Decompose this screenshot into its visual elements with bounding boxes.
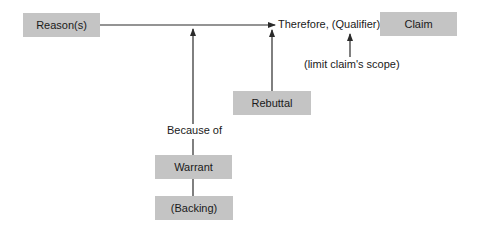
rebuttal-box: Rebuttal (233, 91, 311, 115)
because-of-label: Because of (167, 124, 222, 136)
backing-label: (Backing) (171, 202, 217, 214)
claim-box: Claim (380, 12, 457, 36)
reasons-label: Reason(s) (36, 19, 87, 31)
qualifier-note-label: (limit claim's scope) (304, 58, 400, 70)
backing-box: (Backing) (155, 196, 233, 220)
reasons-box: Reason(s) (23, 13, 100, 37)
warrant-label: Warrant (174, 161, 213, 173)
claim-label: Claim (404, 18, 432, 30)
warrant-box: Warrant (155, 155, 232, 179)
qualifier-label: Therefore, (Qualifier) (278, 18, 380, 30)
rebuttal-label: Rebuttal (252, 97, 293, 109)
